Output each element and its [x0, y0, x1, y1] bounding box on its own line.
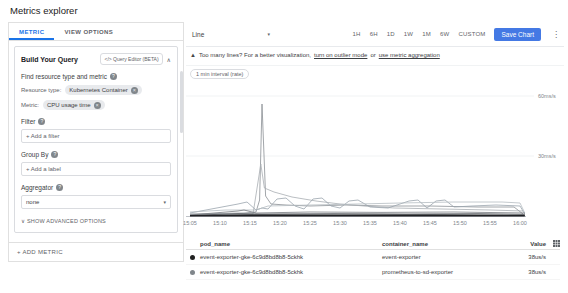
time-range-1h[interactable]: 1H: [353, 31, 361, 37]
time-range-group: 1H6H1D1W1M6WCUSTOM: [353, 31, 486, 37]
outlier-mode-link[interactable]: turn on outlier mode: [314, 52, 367, 58]
x-axis-labels: 15:0515:1015:1515:2015:2515:3015:3515:40…: [186, 220, 534, 230]
x-axis-tick: 15:10: [213, 220, 227, 226]
chevron-down-icon: ∨: [21, 218, 25, 224]
warning-or: or: [370, 52, 375, 58]
table-row[interactable]: event-exporter-gke-6c9d8bd8b8-5ckhkprome…: [186, 265, 560, 280]
series-color-dot: [190, 270, 195, 275]
collapse-card-chevron-icon[interactable]: ∧: [167, 56, 171, 63]
help-icon[interactable]: ?: [110, 73, 117, 80]
help-icon[interactable]: ?: [56, 184, 63, 191]
warning-text: Too many lines? For a better visualizati…: [199, 52, 311, 58]
chart-type-select[interactable]: Line ▾: [192, 31, 270, 38]
filter-label: Filter ?: [21, 118, 171, 125]
x-axis-tick: 15:40: [393, 220, 407, 226]
column-settings-icon[interactable]: [546, 240, 560, 247]
chart-toolbar: Line ▾ 1H6H1D1W1M6WCUSTOM Save Chart ⋮: [186, 24, 562, 44]
page-title: Metrics explorer: [10, 5, 78, 16]
time-range-6w[interactable]: 6W: [440, 31, 449, 37]
metric-chip-label: CPU usage time: [47, 102, 91, 108]
warning-divider: [186, 65, 564, 66]
header-container-name[interactable]: container_name: [382, 241, 512, 247]
line-chart[interactable]: 15:0515:1015:1515:2015:2515:3015:3515:40…: [186, 82, 562, 234]
header-pod-name[interactable]: pod_name: [200, 241, 382, 247]
add-label-button[interactable]: + Add a label: [21, 162, 171, 176]
time-range-custom[interactable]: CUSTOM: [458, 31, 485, 37]
header-value[interactable]: Value: [512, 241, 546, 247]
resource-type-chip-label: Kubernetes Container: [69, 87, 127, 93]
y-axis-tick: 60ms/s: [538, 93, 556, 99]
query-editor-label: Query Editor (BETA): [113, 56, 158, 62]
resource-type-chip[interactable]: Kubernetes Container ×: [65, 85, 141, 95]
x-axis-tick: 15:30: [333, 220, 347, 226]
remove-chip-icon[interactable]: ×: [131, 87, 138, 94]
toolbar-divider: [186, 46, 564, 47]
legend-table-header: pod_name container_name Value: [186, 238, 560, 250]
query-builder-panel: METRIC VIEW OPTIONS Build Your Query </>…: [8, 22, 184, 262]
build-your-query-title: Build Your Query: [21, 56, 78, 63]
group-by-label: Group By ?: [21, 151, 171, 158]
resource-type-label: Resource type:: [21, 87, 61, 93]
value-cell: 38us/s: [512, 254, 546, 260]
help-icon[interactable]: ?: [38, 118, 45, 125]
metrics-explorer-page: Metrics explorer METRIC VIEW OPTIONS Bui…: [0, 0, 568, 293]
time-range-6h[interactable]: 6H: [370, 31, 378, 37]
dropdown-arrow-icon: ▾: [163, 199, 166, 205]
metric-chip[interactable]: CPU usage time ×: [43, 100, 105, 110]
panel-tabs: METRIC VIEW OPTIONS: [9, 23, 183, 41]
more-options-icon[interactable]: ⋮: [550, 30, 562, 39]
add-metric-button[interactable]: + ADD METRIC: [9, 242, 183, 261]
x-axis-tick: 15:45: [423, 220, 437, 226]
table-row[interactable]: event-exporter-gke-6c9d8bd8b8-5ckhkevent…: [186, 250, 560, 265]
container-name-cell: prometheus-to-sd-exporter: [382, 269, 512, 275]
x-axis-tick: 16:00: [513, 220, 527, 226]
code-icon: </>: [104, 56, 111, 62]
series-spike-line[interactable]: [190, 104, 523, 214]
find-resource-label: Find resource type and metric ?: [21, 73, 171, 80]
save-chart-button[interactable]: Save Chart: [494, 28, 541, 41]
x-axis-tick: 15:35: [363, 220, 377, 226]
x-axis-tick: 15:20: [273, 220, 287, 226]
warning-icon: ▲: [190, 52, 196, 58]
too-many-lines-warning: ▲ Too many lines? For a better visualiza…: [190, 52, 440, 58]
value-cell: 38us/s: [512, 269, 546, 275]
metric-label: Metric:: [21, 102, 39, 108]
chart-svg[interactable]: [186, 82, 534, 232]
tab-metric[interactable]: METRIC: [9, 23, 54, 40]
add-filter-button[interactable]: + Add a filter: [21, 129, 171, 143]
series-wavy-line[interactable]: [190, 198, 525, 214]
aggregator-select[interactable]: none ▾: [21, 195, 171, 209]
y-axis-labels: 60ms/s30ms/s: [538, 82, 562, 222]
pod-name-cell: event-exporter-gke-6c9d8bd8b8-5ckhk: [200, 254, 382, 260]
time-range-1d[interactable]: 1D: [387, 31, 395, 37]
remove-chip-icon[interactable]: ×: [94, 102, 101, 109]
tab-view-options[interactable]: VIEW OPTIONS: [54, 23, 123, 40]
chart-type-value: Line: [192, 31, 204, 38]
dropdown-arrow-icon: ▾: [267, 31, 270, 37]
y-axis-tick: 30ms/s: [538, 153, 556, 159]
aggregator-value: none: [26, 199, 39, 205]
time-range-1m[interactable]: 1M: [422, 31, 431, 37]
legend-table: pod_name container_name Value event-expo…: [186, 238, 560, 280]
show-advanced-options-toggle[interactable]: ∨ SHOW ADVANCED OPTIONS: [21, 218, 171, 224]
build-your-query-card: Build Your Query </> Query Editor (BETA)…: [14, 46, 178, 233]
x-axis-tick: 15:50: [453, 220, 467, 226]
x-axis-tick: 15:15: [243, 220, 257, 226]
aggregator-label: Aggregator ?: [21, 184, 171, 191]
series-color-dot: [190, 255, 195, 260]
x-axis-tick: 15:25: [303, 220, 317, 226]
time-range-1w[interactable]: 1W: [404, 31, 413, 37]
container-name-cell: event-exporter: [382, 254, 512, 260]
x-axis-tick: 15:55: [483, 220, 497, 226]
pod-name-cell: event-exporter-gke-6c9d8bd8b8-5ckhk: [200, 269, 382, 275]
legend-table-body: event-exporter-gke-6c9d8bd8b8-5ckhkevent…: [186, 250, 560, 280]
panel-scrollbar[interactable]: [180, 71, 183, 133]
metric-aggregation-link[interactable]: use metric aggregation: [379, 52, 440, 58]
x-axis-tick: 15:05: [183, 220, 197, 226]
help-icon[interactable]: ?: [51, 151, 58, 158]
query-editor-button[interactable]: </> Query Editor (BETA): [100, 53, 162, 65]
interval-badge: 1 min interval (rate): [190, 69, 249, 79]
